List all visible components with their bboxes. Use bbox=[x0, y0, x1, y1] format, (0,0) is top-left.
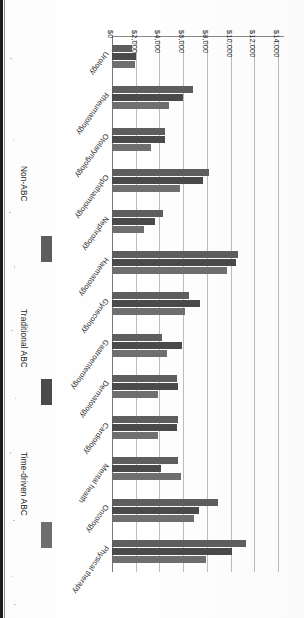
bar-non-abc bbox=[112, 293, 189, 300]
legend-label: Time-driven ABC bbox=[19, 452, 28, 516]
bar-traditional-abc bbox=[112, 53, 136, 60]
bar-group bbox=[112, 499, 284, 522]
legend-label: Non-ABC bbox=[19, 166, 28, 202]
category-label: Nephrology bbox=[81, 214, 111, 251]
rotated-figure: Time-driven ABCTraditional ABCNon-ABC $0… bbox=[0, 0, 304, 618]
bar-group bbox=[112, 251, 284, 274]
bar-group bbox=[112, 334, 284, 357]
value-axis-tick-label: $2,000 bbox=[130, 30, 139, 53]
plot-area bbox=[112, 36, 284, 572]
category-label: Mental health bbox=[77, 462, 111, 505]
legend-item: Traditional ABC bbox=[12, 265, 58, 405]
bar-non-abc bbox=[112, 499, 218, 506]
bar-group bbox=[112, 86, 284, 109]
bar-traditional-abc bbox=[112, 548, 232, 555]
category-label: Physical therapy bbox=[71, 544, 111, 595]
legend-item: Non-ABC bbox=[12, 122, 58, 262]
bar-traditional-abc bbox=[112, 465, 161, 472]
bar-non-abc bbox=[112, 540, 246, 547]
legend-label: Traditional ABC bbox=[19, 309, 28, 368]
bar-group bbox=[112, 210, 284, 233]
category-label: Otolaryngology bbox=[74, 132, 111, 180]
legend-swatch bbox=[41, 236, 52, 262]
bar-traditional-abc bbox=[112, 301, 200, 308]
bar-non-abc bbox=[112, 457, 178, 464]
bar-group bbox=[112, 375, 284, 398]
bar-time-driven-abc bbox=[112, 144, 151, 151]
bar-non-abc bbox=[112, 251, 238, 258]
value-axis-tick-label: $6,000 bbox=[177, 30, 186, 53]
category-label: Cardiology bbox=[82, 421, 110, 456]
bar-traditional-abc bbox=[112, 218, 155, 225]
bar-time-driven-abc bbox=[112, 350, 167, 357]
category-label: Dermatology bbox=[78, 379, 110, 420]
bar-time-driven-abc bbox=[112, 432, 158, 439]
legend-item: Time-driven ABC bbox=[12, 408, 58, 548]
bar-time-driven-abc bbox=[112, 267, 227, 274]
value-axis-tick-label: $12,000 bbox=[248, 30, 257, 57]
bar-non-abc bbox=[112, 416, 178, 423]
category-label: Gynecology bbox=[80, 297, 111, 335]
bar-chart bbox=[112, 36, 284, 572]
bar-non-abc bbox=[112, 334, 162, 341]
bar-time-driven-abc bbox=[112, 102, 169, 109]
bar-group bbox=[112, 128, 284, 151]
bar-group bbox=[112, 293, 284, 316]
bar-non-abc bbox=[112, 169, 209, 176]
bar-group bbox=[112, 416, 284, 439]
bar-group bbox=[112, 169, 284, 192]
bar-time-driven-abc bbox=[112, 556, 206, 563]
bar-group bbox=[112, 457, 284, 480]
category-label: Rheumatology bbox=[75, 91, 111, 137]
category-label: Urology bbox=[88, 50, 111, 77]
bar-traditional-abc bbox=[112, 424, 177, 431]
value-axis-tick-label: $4,000 bbox=[153, 30, 162, 53]
scanned-page: Time-driven ABCTraditional ABCNon-ABC $0… bbox=[0, 0, 304, 618]
value-axis-tick-label: $8,000 bbox=[201, 30, 210, 53]
bar-traditional-abc bbox=[112, 259, 237, 266]
chart-legend: Time-driven ABCTraditional ABCNon-ABC bbox=[12, 118, 58, 548]
bar-non-abc bbox=[112, 86, 193, 93]
bar-traditional-abc bbox=[112, 342, 182, 349]
bar-time-driven-abc bbox=[112, 473, 181, 480]
bar-group bbox=[112, 540, 284, 563]
bar-traditional-abc bbox=[112, 136, 165, 143]
bar-traditional-abc bbox=[112, 507, 199, 514]
bar-time-driven-abc bbox=[112, 185, 180, 192]
bar-non-abc bbox=[112, 375, 177, 382]
bar-non-abc bbox=[112, 210, 163, 217]
bar-time-driven-abc bbox=[112, 61, 135, 68]
category-label: Ophthalmology bbox=[74, 173, 111, 221]
bar-time-driven-abc bbox=[112, 226, 144, 233]
value-axis-tick-label: $0 bbox=[106, 30, 115, 38]
bar-traditional-abc bbox=[112, 177, 203, 184]
bar-time-driven-abc bbox=[112, 309, 186, 316]
bar-non-abc bbox=[112, 128, 165, 135]
bar-time-driven-abc bbox=[112, 515, 194, 522]
bar-traditional-abc bbox=[112, 94, 183, 101]
category-label: Haematology bbox=[77, 256, 110, 298]
value-axis-tick-label: $14,000 bbox=[272, 30, 281, 57]
value-axis-tick-label: $10,000 bbox=[225, 30, 234, 57]
legend-swatch bbox=[41, 522, 52, 548]
category-label: Oncology bbox=[85, 503, 111, 535]
legend-swatch bbox=[41, 379, 52, 405]
bar-time-driven-abc bbox=[112, 391, 158, 398]
bar-traditional-abc bbox=[112, 383, 178, 390]
